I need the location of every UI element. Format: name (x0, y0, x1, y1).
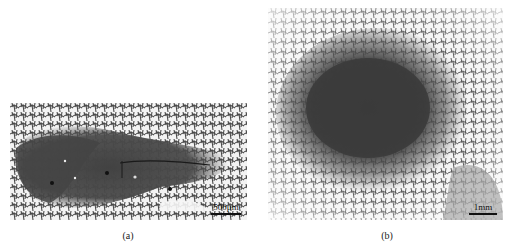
scale-bar-line-a (211, 213, 241, 215)
scale-bar-label-b: 1mm (474, 203, 493, 212)
micrograph-panel-b: 1mm (268, 8, 503, 220)
micrograph-panel-a: 500μm (10, 103, 247, 220)
scale-bar-label-a: 500μm (213, 203, 238, 212)
scale-bar-line-b (469, 213, 497, 215)
caption-b: (b) (372, 230, 402, 241)
scale-bar-b: 1mm (469, 203, 497, 215)
micrograph-image-b (268, 8, 503, 220)
scale-bar-a: 500μm (211, 203, 241, 215)
caption-a: (a) (113, 230, 143, 241)
